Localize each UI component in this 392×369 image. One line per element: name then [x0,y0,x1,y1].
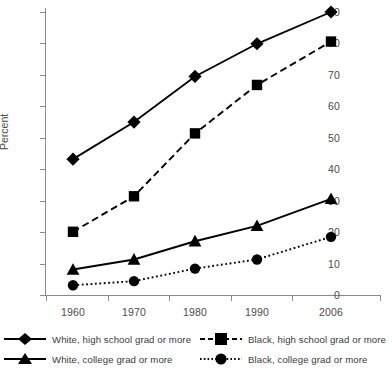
x-tick [231,295,232,301]
series-line [73,199,331,270]
data-point-marker [190,263,200,273]
x-tick [292,295,293,301]
legend-label: White, college grad or more [52,354,173,365]
data-point-marker [250,37,263,50]
legend-label: White, high school grad or more [52,334,191,345]
data-point-marker [128,253,141,265]
data-point-marker [252,80,262,90]
legend-marker-triangle-solid [2,351,48,367]
y-tick-label: 50 [328,132,340,144]
legend-marker-circle-dotted [198,351,244,367]
y-tick [40,201,46,202]
data-point-marker [188,70,201,83]
y-tick [40,169,46,170]
y-tick-label: 20 [328,226,340,238]
x-tick-label: 1980 [183,306,207,318]
y-tick [40,138,46,139]
y-tick-label: 70 [328,69,340,81]
data-point-marker [67,263,80,275]
y-tick [40,232,46,233]
data-point-marker [252,254,262,264]
y-tick [40,75,46,76]
data-point-marker [190,128,200,138]
x-tick [380,295,381,301]
y-tick-label: 30 [328,195,340,207]
y-tick [40,12,46,13]
legend-label: Black, college grad or more [248,354,367,365]
legend-marker-square-dashed [198,331,244,347]
y-axis-line [45,8,46,296]
series-line [73,237,331,285]
chart-container: Percent 0102030405060708090 196019701980… [0,0,392,369]
y-tick [40,106,46,107]
y-tick-label: 80 [328,37,340,49]
x-tick-label: 1960 [61,306,85,318]
x-tick-label: 1970 [122,306,146,318]
x-tick [108,295,109,301]
y-axis-title: Percent [0,114,10,150]
data-point-marker [68,227,78,237]
data-point-marker [127,115,140,128]
legend-item-white-college: White, college grad or more [2,350,173,368]
series-line [73,12,331,159]
x-axis-line [45,295,380,296]
y-tick-label: 90 [328,6,340,18]
legend-label: Black, high school grad or more [248,334,386,345]
legend-item-black-college: Black, college grad or more [198,350,367,368]
y-tick [40,43,46,44]
series-line [73,42,331,232]
data-point-marker [251,219,264,231]
x-tick-label: 1990 [245,306,269,318]
data-point-marker [129,276,139,286]
data-point-marker [129,191,139,201]
y-tick [40,264,46,265]
data-point-marker [66,153,79,166]
data-point-marker [68,280,78,290]
chart-legend: White, high school grad or more White, c… [0,330,392,369]
x-tick-label: 2006 [319,306,343,318]
legend-item-black-high-school: Black, high school grad or more [198,330,386,348]
data-point-marker [189,235,202,247]
y-tick-label: 60 [328,100,340,112]
legend-item-white-high-school: White, high school grad or more [2,330,191,348]
x-tick [46,295,47,301]
y-tick-label: 10 [328,258,340,270]
legend-marker-diamond-solid [2,331,48,347]
y-tick-label: 40 [328,163,340,175]
x-tick [169,295,170,301]
y-tick-label: 0 [334,289,340,301]
